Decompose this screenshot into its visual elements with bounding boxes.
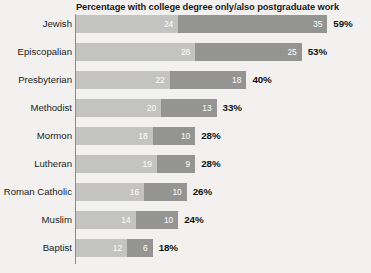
segment-value: 24 [164, 19, 178, 29]
bar-row: Methodist201333% [0, 98, 371, 126]
bar-row: Jewish243559% [0, 14, 371, 42]
bar-segment-postgraduate: 18 [170, 71, 247, 89]
bar-total-label: 59% [333, 18, 352, 30]
bar-row: Presbyterian221840% [0, 70, 371, 98]
stacked-bar: 2435 [76, 15, 327, 33]
segment-value: 10 [181, 131, 195, 141]
bar-segment-college-only: 24 [76, 15, 178, 33]
bar-segment-postgraduate: 10 [144, 183, 187, 201]
segment-value: 22 [155, 75, 169, 85]
segment-value: 12 [113, 243, 127, 253]
segment-value: 9 [186, 159, 196, 169]
stacked-bar: 1610 [76, 183, 187, 201]
bar-segment-postgraduate: 9 [157, 155, 195, 173]
chart-title: Percentage with college degree only/also… [76, 1, 368, 13]
bar-total-label: 24% [184, 214, 203, 226]
bar-segment-postgraduate: 35 [178, 15, 327, 33]
category-label-mormon: Mormon [0, 130, 72, 142]
bar-row: Mormon181028% [0, 126, 371, 154]
category-label-methodist: Methodist [0, 102, 72, 114]
bar-total-label: 18% [159, 242, 178, 254]
segment-value: 18 [232, 75, 246, 85]
bar-segment-postgraduate: 10 [136, 211, 179, 229]
category-label-roman-catholic: Roman Catholic [0, 186, 72, 198]
bar-segment-college-only: 14 [76, 211, 136, 229]
chart-container: Percentage with college degree only/also… [0, 0, 371, 273]
segment-value: 19 [143, 159, 157, 169]
category-label-muslim: Muslim [0, 214, 72, 226]
segment-value: 10 [164, 215, 178, 225]
bar-segment-college-only: 18 [76, 127, 153, 145]
segment-value: 6 [143, 243, 153, 253]
stacked-bar: 199 [76, 155, 195, 173]
segment-value: 10 [172, 187, 186, 197]
stacked-bar: 1410 [76, 211, 178, 229]
bar-segment-postgraduate: 13 [161, 99, 216, 117]
bar-segment-college-only: 12 [76, 239, 127, 257]
stacked-bar: 2218 [76, 71, 246, 89]
bar-segment-college-only: 19 [76, 155, 157, 173]
bar-row: Episcopalian282553% [0, 42, 371, 70]
bar-total-label: 26% [193, 186, 212, 198]
bar-segment-college-only: 22 [76, 71, 170, 89]
stacked-bar: 1810 [76, 127, 195, 145]
bar-segment-postgraduate: 6 [127, 239, 153, 257]
bar-segment-postgraduate: 10 [153, 127, 196, 145]
category-label-jewish: Jewish [0, 18, 72, 30]
stacked-bar: 2013 [76, 99, 217, 117]
segment-value: 35 [313, 19, 327, 29]
segment-value: 16 [130, 187, 144, 197]
bar-row: Baptist12618% [0, 238, 371, 266]
plot-area: Jewish243559%Episcopalian282553%Presbyte… [0, 14, 371, 270]
bar-segment-college-only: 16 [76, 183, 144, 201]
bar-segment-college-only: 28 [76, 43, 195, 61]
segment-value: 13 [202, 103, 216, 113]
bar-row: Lutheran19928% [0, 154, 371, 182]
bar-row: Muslim141024% [0, 210, 371, 238]
segment-value: 20 [147, 103, 161, 113]
bar-segment-college-only: 20 [76, 99, 161, 117]
bar-total-label: 40% [252, 74, 271, 86]
category-label-episcopalian: Episcopalian [0, 46, 72, 58]
bar-total-label: 28% [201, 130, 220, 142]
category-label-baptist: Baptist [0, 242, 72, 254]
segment-value: 28 [181, 47, 195, 57]
category-label-presbyterian: Presbyterian [0, 74, 72, 86]
stacked-bar: 126 [76, 239, 153, 257]
bar-total-label: 33% [223, 102, 242, 114]
segment-value: 25 [287, 47, 301, 57]
category-label-lutheran: Lutheran [0, 158, 72, 170]
bar-total-label: 28% [201, 158, 220, 170]
bar-total-label: 53% [308, 46, 327, 58]
segment-value: 18 [138, 131, 152, 141]
bar-segment-postgraduate: 25 [195, 43, 302, 61]
segment-value: 14 [121, 215, 135, 225]
bar-row: Roman Catholic161026% [0, 182, 371, 210]
stacked-bar: 2825 [76, 43, 302, 61]
